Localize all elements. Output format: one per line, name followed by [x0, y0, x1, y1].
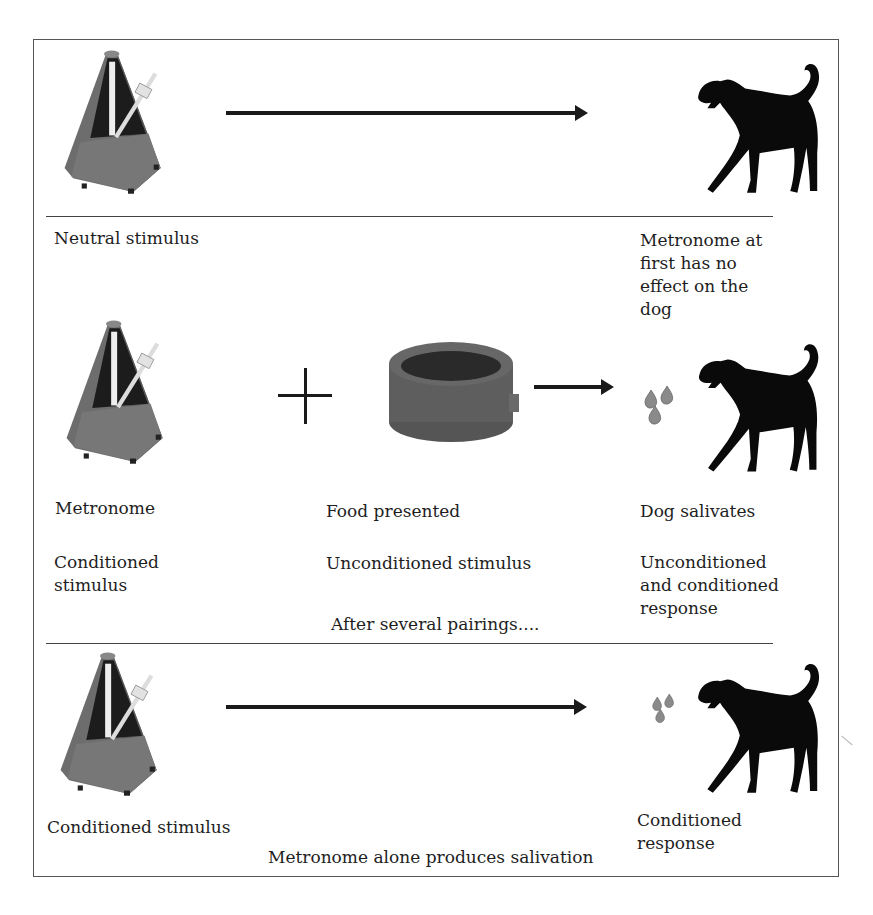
- metronome-label: Metronome: [55, 497, 155, 520]
- scan-artifact: [841, 736, 852, 746]
- arrow-right-icon: [226, 111, 584, 115]
- no-effect-label: Metronome at first has no effect on the …: [640, 229, 762, 321]
- plus-icon-vertical: [304, 368, 307, 424]
- dog-salivates-label: Dog salivates: [640, 500, 755, 523]
- unconditioned-conditioned-response-label: Unconditioned and conditioned response: [640, 551, 779, 620]
- saliva-drops-icon: [641, 386, 679, 426]
- dog-icon: [693, 658, 828, 798]
- section-divider: [46, 643, 773, 644]
- unconditioned-stimulus-label: Unconditioned stimulus: [326, 552, 531, 575]
- conditioned-response-label: Conditioned response: [637, 809, 742, 855]
- dog-icon: [693, 340, 828, 475]
- arrow-right-icon: [226, 705, 583, 709]
- dog-icon: [693, 58, 828, 198]
- neutral-stimulus-label: Neutral stimulus: [54, 227, 199, 250]
- section-divider: [46, 216, 773, 217]
- conditioned-stimulus-label: Conditioned stimulus: [54, 551, 159, 597]
- saliva-drops-icon: [646, 694, 682, 724]
- metronome-icon: [52, 650, 172, 800]
- metronome-icon: [56, 48, 176, 198]
- conditioned-stimulus-label: Conditioned stimulus: [47, 816, 230, 839]
- after-several-pairings-label: After several pairings....: [331, 613, 539, 636]
- arrow-right-icon: [534, 385, 610, 389]
- food-bowl-icon: [383, 336, 523, 444]
- food-presented-label: Food presented: [326, 500, 460, 523]
- metronome-alone-label: Metronome alone produces salivation: [268, 846, 593, 869]
- metronome-icon: [56, 318, 180, 468]
